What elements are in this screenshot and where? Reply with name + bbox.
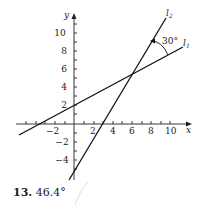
x-axis-label: x [186, 125, 191, 135]
angle-label: 30° [162, 36, 178, 46]
problem-number: 13. [13, 186, 32, 199]
x-tick-label: 10 [165, 126, 177, 136]
x-tick-label: 6 [129, 126, 135, 136]
x-tick-label: 2 [90, 126, 96, 136]
coordinate-diagram: x y −2 2 4 6 8 10 10 8 6 4 2 −2 −4 l2 l1… [0, 0, 199, 206]
y-tick-label: −2 [55, 137, 68, 147]
line-l2-label: l2 [166, 8, 173, 19]
y-tick-label: 4 [61, 82, 67, 92]
y-tick-label: 2 [61, 100, 67, 110]
y-axis-arrow-icon [72, 13, 77, 19]
y-tick-label: 6 [61, 64, 67, 74]
pencil-mark [75, 182, 88, 205]
answer-value: 46.4° [36, 186, 66, 199]
line-l1 [19, 47, 183, 135]
x-tick-label: 4 [110, 126, 116, 136]
y-tick-label: −4 [55, 155, 69, 165]
x-tick-label: 8 [148, 126, 154, 136]
y-tick-label: 8 [61, 46, 67, 56]
y-axis [74, 18, 77, 180]
answer-caption: 13. 46.4° [13, 186, 66, 199]
x-tick-label: −2 [46, 126, 59, 136]
y-tick-label: 10 [54, 28, 66, 38]
line-l1-label: l1 [183, 38, 190, 49]
y-axis-label: y [63, 10, 70, 20]
line-l2 [69, 18, 166, 180]
